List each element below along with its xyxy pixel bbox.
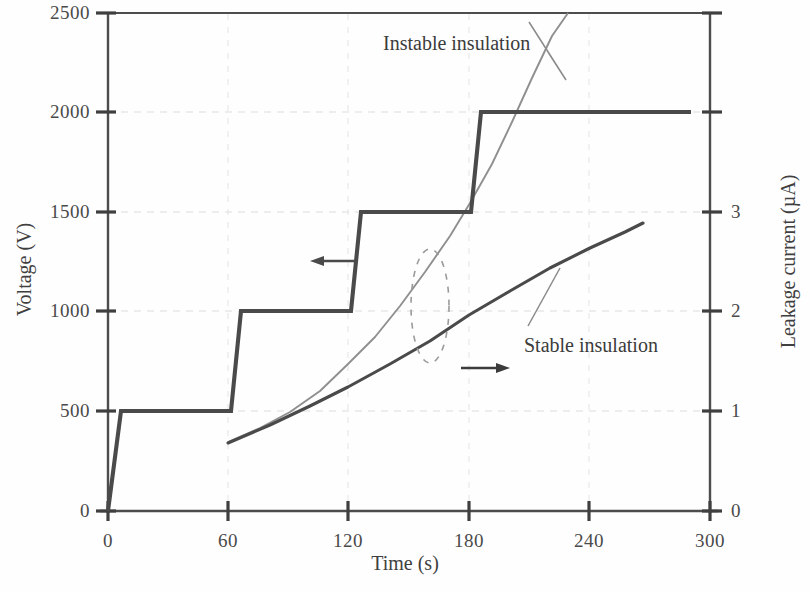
axis-lines — [100, 12, 718, 513]
xtick-label-0: 0 — [103, 530, 113, 552]
xtick-label-60: 60 — [218, 530, 238, 552]
xtick-label-300: 300 — [695, 530, 725, 552]
ytick-right-label-1: 1 — [731, 400, 781, 422]
series-instable-insulation — [228, 13, 568, 442]
arrow-right-icon — [461, 363, 510, 373]
xtick-label-240: 240 — [574, 530, 604, 552]
ytick-right-label-3: 3 — [731, 201, 781, 223]
ytick-label-2500: 2500 — [0, 2, 90, 24]
xtick-label-120: 120 — [333, 530, 363, 552]
arrow-left-icon — [310, 256, 357, 266]
gridlines-vertical — [228, 14, 589, 511]
right-axis-ticks — [702, 13, 722, 511]
stable-insulation-label: Stable insulation — [524, 334, 658, 357]
ytick-right-label-2: 2 — [731, 300, 781, 322]
y-axis-right-title: Leakage current (µA) — [777, 162, 800, 362]
gridlines — [108, 112, 710, 411]
ytick-label-500: 500 — [0, 400, 90, 422]
xtick-label-180: 180 — [454, 530, 484, 552]
left-axis-ticks — [96, 13, 116, 511]
instable-insulation-label: Instable insulation — [383, 32, 530, 55]
ytick-label-0: 0 — [0, 500, 90, 522]
x-axis-title: Time (s) — [0, 552, 810, 575]
y-axis-left-title: Voltage (V) — [13, 180, 36, 360]
chart-canvas — [0, 0, 810, 592]
leakage-current-voltage-chart: 2500 2000 1500 1000 500 0 3 2 1 0 0 60 1… — [0, 0, 810, 592]
ytick-right-label-0: 0 — [731, 500, 781, 522]
ytick-label-2000: 2000 — [0, 101, 90, 123]
